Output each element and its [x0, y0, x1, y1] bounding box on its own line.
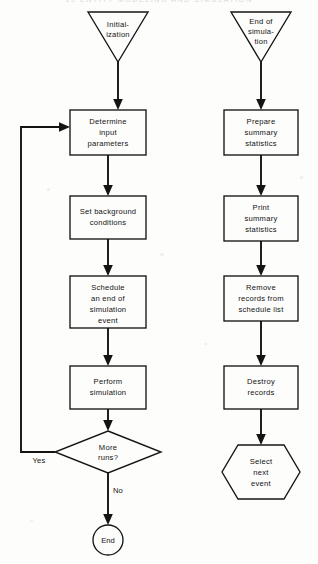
connector-prepare-to-print — [256, 155, 266, 196]
node-print-summary-line-1: summary — [245, 214, 278, 223]
node-end-of-simulation: End of simula- tion — [231, 12, 291, 62]
node-schedule-end-of-simulation-event: Schedule an end of simulation event — [70, 276, 146, 328]
node-select-next-event-line-1: next — [253, 468, 269, 477]
node-select-next-event-line-0: Select — [250, 457, 273, 466]
node-set-background-conditions-line-1: conditions — [90, 218, 127, 227]
node-end-of-simulation-line-1: simula- — [248, 27, 274, 36]
node-end-of-simulation-line-2: tion — [254, 37, 267, 46]
connector-schedule-to-perform — [103, 328, 113, 366]
node-destroy-records-line-0: Destroy — [247, 377, 275, 386]
node-remove-records-line-0: Remove — [246, 283, 276, 292]
node-set-background-conditions-line-0: Set background — [80, 207, 137, 216]
node-destroy-records: Destroy records — [224, 366, 298, 409]
node-destroy-records-line-1: records — [247, 388, 274, 397]
connector-perform-to-more-runs — [103, 409, 113, 431]
connector-eos-to-prepare — [256, 62, 266, 110]
node-more-runs-line-1: runs? — [98, 453, 118, 462]
node-determine-input-parameters-line-2: parameters — [88, 139, 129, 148]
node-schedule-line-2: simulation — [90, 305, 127, 314]
node-select-next-event: Select next event — [222, 445, 300, 499]
branch-label-yes: Yes — [32, 456, 45, 465]
node-perform-simulation: Perform simulation — [70, 366, 146, 409]
node-print-summary-line-2: statistics — [245, 225, 277, 234]
branch-label-no: No — [113, 486, 123, 495]
node-end-terminator: End — [93, 525, 123, 555]
flowchart-figure: Initial- ization Determine input paramet… — [0, 0, 318, 564]
node-prepare-summary-line-1: summary — [245, 128, 278, 137]
node-determine-input-parameters-line-1: input — [99, 128, 117, 137]
node-initialization-line-1: ization — [106, 30, 130, 39]
connector-determine-to-set-background — [103, 155, 113, 196]
node-remove-records-line-1: records from — [238, 294, 284, 303]
connector-destroy-to-select-next-event — [256, 409, 266, 445]
node-initialization-line-0: Initial- — [107, 20, 129, 29]
node-prepare-summary-line-2: statistics — [245, 139, 277, 148]
node-end-label: End — [101, 536, 115, 545]
node-print-summary-line-0: Print — [253, 203, 271, 212]
node-more-runs-line-0: More — [99, 443, 117, 452]
node-determine-input-parameters: Determine input parameters — [70, 110, 146, 155]
node-remove-records-from-schedule-list: Remove records from schedule list — [224, 276, 298, 321]
node-initialization: Initial- ization — [88, 12, 148, 62]
node-prepare-summary-statistics: Prepare summary statistics — [224, 110, 298, 155]
node-schedule-line-0: Schedule — [91, 283, 125, 292]
connector-remove-to-destroy — [256, 321, 266, 366]
connector-yes-feedback-loop — [21, 122, 70, 452]
connector-no-to-end — [103, 473, 113, 525]
node-set-background-conditions: Set background conditions — [70, 196, 146, 239]
connector-print-to-remove — [256, 241, 266, 276]
flowchart-page: 10 ENTITY MODELING AND SIMULATION Initia… — [0, 0, 318, 564]
node-schedule-line-3: event — [98, 316, 118, 325]
node-prepare-summary-line-0: Prepare — [247, 117, 276, 126]
node-perform-simulation-line-1: simulation — [90, 388, 127, 397]
connector-set-background-to-schedule — [103, 239, 113, 276]
node-perform-simulation-line-0: Perform — [94, 377, 123, 386]
node-schedule-line-1: an end of — [91, 294, 126, 303]
node-print-summary-statistics: Print summary statistics — [224, 196, 298, 241]
node-select-next-event-line-2: event — [251, 479, 271, 488]
connector-init-to-determine — [113, 62, 123, 110]
node-remove-records-line-2: schedule list — [238, 305, 284, 314]
node-determine-input-parameters-line-0: Determine — [89, 117, 126, 126]
node-more-runs-decision: More runs? — [55, 431, 161, 473]
node-end-of-simulation-line-0: End of — [249, 17, 273, 26]
